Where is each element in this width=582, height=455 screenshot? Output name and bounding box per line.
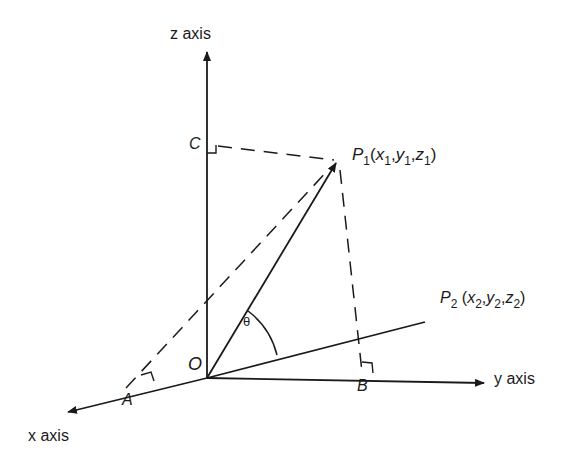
p1-z-sub: 1 [424, 154, 431, 168]
p1-sub: 1 [363, 154, 370, 168]
right-angle-b [362, 362, 373, 373]
p1-z: z [416, 145, 425, 164]
point-p1-label: P1(x1,y1,z1) [352, 146, 436, 163]
origin-label: O [188, 355, 202, 373]
p1-name: P [352, 145, 363, 164]
p1-x: x [376, 145, 385, 164]
point-p2-label: P2 (x2,y2,z2) [440, 290, 525, 306]
p2-x: x [467, 289, 475, 306]
vector-op2 [207, 322, 425, 378]
p2-z-sub: 2 [513, 297, 520, 311]
p2-sub: 2 [451, 297, 458, 311]
theta-label: θ [243, 315, 250, 328]
point-c-label: C [189, 136, 201, 152]
p2-name: P [440, 289, 451, 306]
x-axis-line [68, 378, 207, 412]
right-angle-a [141, 372, 154, 381]
y-axis-label: y axis [494, 371, 535, 387]
x-axis-label: x axis [28, 428, 69, 444]
vector-op1 [207, 163, 336, 378]
theta-arc [248, 311, 277, 355]
dashed-c-p1 [218, 146, 334, 160]
z-axis-text: z axis [170, 25, 211, 42]
p1-y: y [396, 145, 405, 164]
point-b-label: B [357, 378, 368, 394]
right-angle-c [207, 145, 216, 153]
p2-x-sub: 2 [475, 297, 482, 311]
p1-y-sub: 1 [404, 154, 411, 168]
point-a-label: A [122, 392, 133, 408]
p2-y-sub: 2 [494, 297, 501, 311]
p1-x-sub: 1 [384, 154, 391, 168]
y-axis-line [207, 378, 484, 383]
z-axis-label: z axis [170, 26, 211, 42]
